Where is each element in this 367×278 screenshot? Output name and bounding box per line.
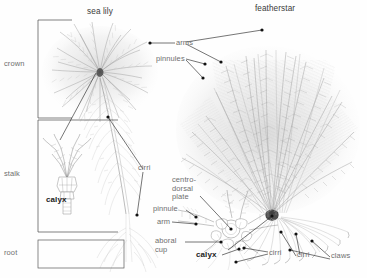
aboral-cup-label: aboral cup bbox=[155, 237, 176, 254]
root-region-label: root bbox=[4, 249, 17, 258]
claws-label: claws bbox=[331, 252, 350, 261]
featherstar-title: featherstar bbox=[230, 5, 320, 14]
sea-lily-title: sea lily bbox=[60, 8, 140, 17]
cirri-spread-label: cirri bbox=[297, 251, 310, 260]
calyx-featherstar-label: calyx bbox=[196, 251, 217, 260]
cirri-stalk-label: cirri bbox=[138, 164, 151, 173]
centro-dorsal-plate-label: centro- dorsal plate bbox=[172, 176, 196, 202]
arms-label: arms bbox=[176, 39, 193, 48]
calyx-sea-lily-label: calyx bbox=[46, 196, 67, 205]
pinnules-label: pinnules bbox=[156, 55, 185, 64]
stalk-region-label: stalk bbox=[4, 170, 20, 179]
crinoid-anatomy-figure: sea lily featherstar crown stalk root ar… bbox=[0, 0, 367, 278]
crown-region-label: crown bbox=[4, 60, 25, 69]
arm-label: arm bbox=[157, 218, 170, 227]
pinnule-label: pinnule bbox=[153, 205, 178, 214]
cirri-calyx-label: cirri bbox=[269, 249, 282, 258]
